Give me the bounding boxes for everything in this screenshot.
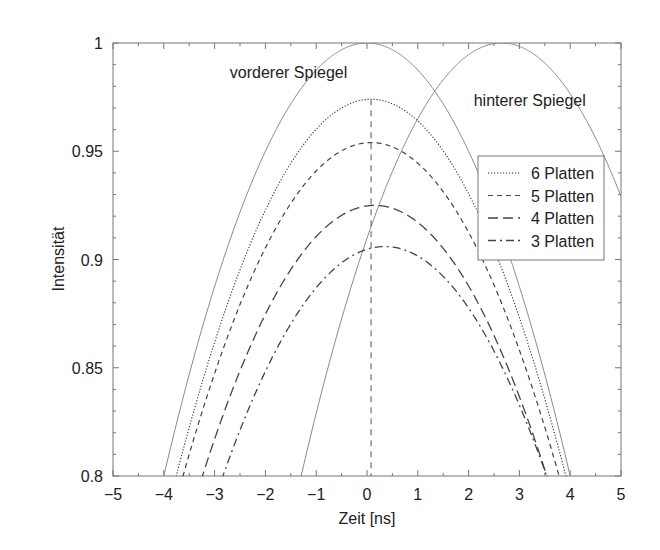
y-tick-label: 0.9: [81, 252, 103, 269]
x-tick-label: 4: [566, 486, 575, 503]
annotation-vorderer-spiegel: vorderer Spiegel: [230, 64, 347, 81]
x-tick-label: −2: [256, 486, 274, 503]
x-tick-label: 2: [464, 486, 473, 503]
annotation-hinterer-spiegel: hinterer Spiegel: [474, 92, 586, 109]
x-tick-label: −1: [307, 486, 325, 503]
y-tick-label: 0.8: [81, 468, 103, 485]
y-tick-label: 1: [94, 35, 103, 52]
legend: 6 Platten5 Platten4 Platten3 Platten: [478, 156, 604, 260]
x-tick-label: −3: [205, 486, 223, 503]
legend-label: 5 Platten: [531, 188, 594, 205]
y-tick-label: 0.95: [72, 143, 103, 160]
y-axis-label: Intensität: [50, 226, 67, 291]
x-tick-label: 1: [413, 486, 422, 503]
legend-label: 6 Platten: [531, 165, 594, 182]
x-tick-label: 5: [617, 486, 626, 503]
x-tick-label: −4: [155, 486, 173, 503]
line-chart: −5−4−3−2−10123450.80.850.90.951 vorderer…: [0, 0, 660, 550]
legend-label: 4 Platten: [531, 210, 594, 227]
x-tick-label: 0: [363, 486, 372, 503]
x-tick-label: 3: [515, 486, 524, 503]
legend-label: 3 Platten: [531, 233, 594, 250]
x-tick-label: −5: [104, 486, 122, 503]
y-tick-label: 0.85: [72, 360, 103, 377]
x-axis-label: Zeit [ns]: [339, 510, 396, 527]
